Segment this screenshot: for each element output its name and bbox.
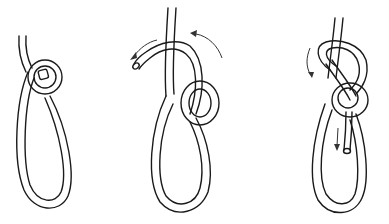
step-3-figure [307,18,368,213]
arrow-down-curve-icon [307,48,310,74]
arrow-curve-icon [196,34,222,58]
arrow-down-icon [337,128,338,146]
knot-diagram [0,0,389,224]
step-1-figure [17,36,71,208]
step-2-figure [130,8,222,212]
